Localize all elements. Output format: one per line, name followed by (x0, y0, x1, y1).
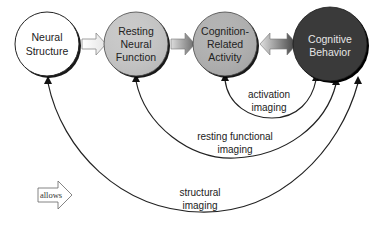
node-label: Neural (32, 31, 63, 43)
edge-label-structural-imaging: structural imaging (179, 187, 220, 211)
node-resting-neural-function: Resting Neural Function (104, 12, 170, 78)
node-label: Resting (118, 25, 154, 37)
arrow-resting-to-cognition (171, 33, 195, 55)
diagram-canvas: Neural Structure Resting Neural Function… (0, 0, 385, 226)
node-label: Neural (121, 38, 152, 50)
node-cognition-related-activity: Cognition- Related Activity (193, 12, 259, 78)
node-label: Behavior (309, 46, 351, 58)
edge-label: structural (179, 187, 220, 198)
node-label: Cognition- (201, 25, 249, 37)
node-label: Cognitive (308, 33, 352, 45)
edge-label: imaging (217, 144, 252, 155)
edge-label: imaging (182, 200, 217, 211)
edge-label: resting functional (197, 131, 273, 142)
node-label: Activity (208, 51, 242, 63)
node-neural-structure: Neural Structure (15, 12, 81, 78)
node-label: Function (116, 51, 156, 63)
edge-label: imaging (251, 102, 286, 113)
arrow-cognition-behavior-bidirectional (260, 33, 297, 55)
node-label: Structure (26, 45, 69, 57)
arrowhead-icon (354, 76, 362, 84)
node-cognitive-behavior: Cognitive Behavior (293, 7, 369, 83)
node-label: Related (207, 38, 243, 50)
edge-label-activation-imaging: activation imaging (248, 89, 290, 113)
edge-label: activation (248, 89, 290, 100)
edge-label-resting-functional-imaging: resting functional imaging (197, 131, 273, 155)
legend-label: allows (40, 190, 62, 200)
arrow-structure-to-resting (82, 33, 106, 55)
legend-allows: allows (38, 181, 72, 209)
